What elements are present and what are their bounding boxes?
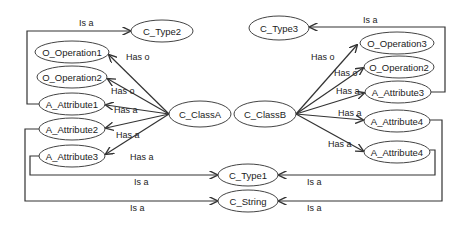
- node-label: C_Type2: [143, 26, 181, 37]
- node-c-classb[interactable]: C_ClassB: [234, 101, 296, 127]
- class-diagram: Is a Has o Has o Has a Has a Has a Is a …: [0, 0, 468, 225]
- node-c-type3[interactable]: C_Type3: [249, 16, 309, 40]
- label-has-a-attr3: Has a: [130, 152, 154, 162]
- node-a-attribute2[interactable]: A_Attribute2: [39, 118, 105, 140]
- node-a-attribute3-left[interactable]: A_Attribute3: [39, 145, 105, 167]
- node-o-operation2-right[interactable]: O_Operation2: [364, 56, 434, 78]
- node-c-classa[interactable]: C_ClassA: [169, 101, 231, 127]
- label-is-a-string-right: Is a: [307, 203, 322, 213]
- node-o-operation3[interactable]: O_Operation3: [360, 32, 434, 54]
- label-has-o-op1: Has o: [126, 52, 150, 62]
- label-has-o-op2: Has o: [111, 86, 135, 96]
- node-label: A_Attribute1: [46, 99, 98, 110]
- node-label: O_Operation3: [367, 38, 427, 49]
- label-has-a-attr4-2: Has a: [328, 139, 352, 149]
- label-is-a-type3: Is a: [363, 15, 378, 25]
- node-label: C_String: [230, 196, 267, 207]
- label-has-a-attr3b: Has a: [336, 86, 360, 96]
- node-a-attribute1[interactable]: A_Attribute1: [39, 93, 105, 115]
- label-is-a-string-left: Is a: [130, 203, 145, 213]
- node-c-string[interactable]: C_String: [218, 190, 278, 212]
- node-a-attribute4-first[interactable]: A_Attribute4: [364, 110, 430, 132]
- node-c-type2[interactable]: C_Type2: [131, 20, 193, 42]
- label-has-o-op3: Has o: [311, 52, 335, 62]
- node-label: A_Attribute2: [46, 124, 98, 135]
- node-label: O_Operation2: [369, 62, 429, 73]
- label-has-o-op2b: Has o: [334, 68, 358, 78]
- label-has-a-attr1: Has a: [114, 105, 138, 115]
- node-label: C_ClassB: [244, 109, 286, 120]
- node-a-attribute4-second[interactable]: A_Attribute4: [364, 141, 430, 163]
- node-o-operation2-left[interactable]: O_Operation2: [37, 66, 107, 88]
- node-a-attribute3-right[interactable]: A_Attribute3: [365, 81, 431, 103]
- node-c-type1[interactable]: C_Type1: [218, 164, 278, 186]
- node-label: O_Operation2: [42, 72, 102, 83]
- node-o-operation1[interactable]: O_Operation1: [35, 41, 109, 63]
- node-label: A_Attribute4: [371, 147, 423, 158]
- edge-classa-attribute2: [106, 114, 169, 128]
- node-label: C_ClassA: [179, 109, 222, 120]
- node-label: A_Attribute4: [371, 116, 423, 127]
- label-is-a-type1-right: Is a: [307, 177, 322, 187]
- node-label: C_Type1: [229, 170, 267, 181]
- label-has-a-attr4-1: Has a: [338, 108, 362, 118]
- node-label: C_Type3: [260, 23, 298, 34]
- node-label: A_Attribute3: [46, 151, 98, 162]
- label-is-a-type1-left: Is a: [134, 177, 149, 187]
- nodes: C_Type2 O_Operation1 O_Operation2 A_Attr…: [35, 16, 434, 212]
- label-has-a-attr2: Has a: [116, 130, 140, 140]
- node-label: A_Attribute3: [372, 87, 424, 98]
- label-is-a-type2: Is a: [79, 18, 94, 28]
- node-label: O_Operation1: [42, 47, 102, 58]
